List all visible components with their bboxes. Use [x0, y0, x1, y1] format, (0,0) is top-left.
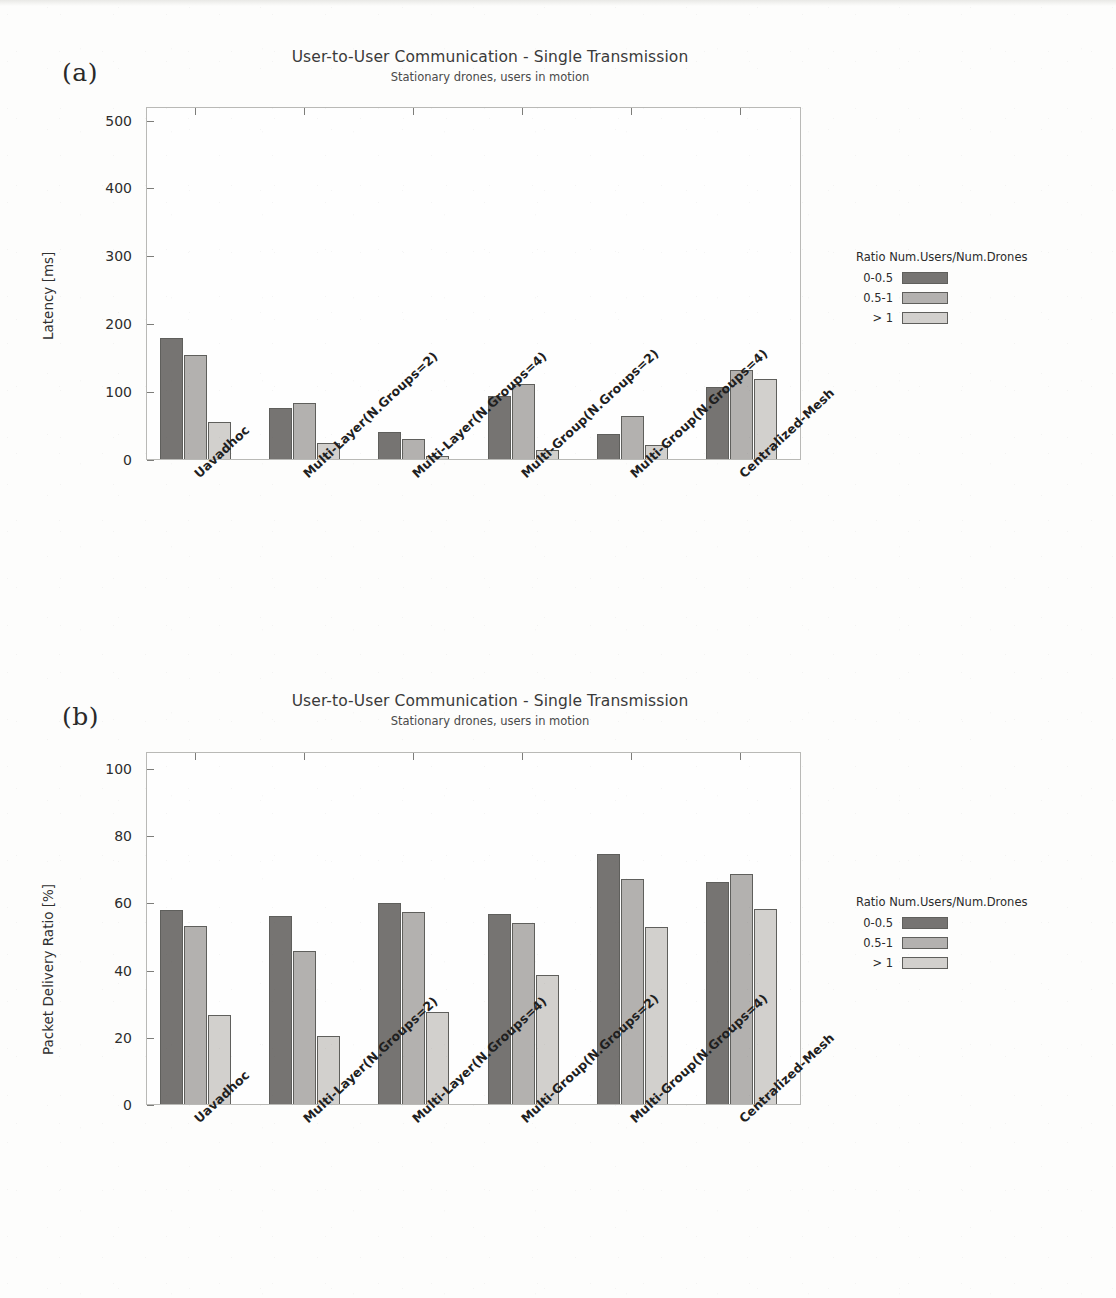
y-tick-mark [147, 769, 154, 770]
y-tick-mark [147, 121, 154, 122]
bar [293, 403, 316, 459]
y-tick-label: 0 [80, 1097, 132, 1113]
legend-label-1: 0.5-1 [856, 291, 902, 305]
bar [621, 879, 644, 1104]
y-tick-mark [147, 324, 154, 325]
legend-swatch-0 [902, 272, 948, 284]
legend-label-2: > 1 [856, 956, 902, 970]
y-tick-label: 300 [80, 248, 132, 264]
y-tick-label: 200 [80, 316, 132, 332]
y-tick-label: 40 [80, 963, 132, 979]
legend-swatch-1 [902, 292, 948, 304]
panel-a-subtitle: Stationary drones, users in motion [140, 70, 840, 84]
x-tick-mark [522, 753, 523, 760]
panel-a-letter: (a) [62, 58, 98, 87]
x-tick-mark [195, 108, 196, 115]
bar [269, 916, 292, 1104]
x-tick-mark [522, 108, 523, 115]
x-tick-mark [304, 108, 305, 115]
panel-a-title: User-to-User Communication - Single Tran… [140, 48, 840, 66]
bar [160, 910, 183, 1104]
legend-label-1: 0.5-1 [856, 936, 902, 950]
y-tick-mark [147, 1038, 154, 1039]
y-tick-label: 400 [80, 180, 132, 196]
legend-swatch-0 [902, 917, 948, 929]
x-tick-mark [304, 753, 305, 760]
bar [378, 903, 401, 1104]
bar [706, 882, 729, 1104]
bar [621, 416, 644, 459]
legend-item-1[interactable]: 0.5-1 [856, 936, 1027, 950]
panel-b-subtitle: Stationary drones, users in motion [140, 714, 840, 728]
panel-b-title: User-to-User Communication - Single Tran… [140, 692, 840, 710]
bar [597, 854, 620, 1104]
legend-title: Ratio Num.Users/Num.Drones [856, 895, 1027, 909]
panel-b-y-axis-label: Packet Delivery Ratio [%] [40, 884, 56, 1055]
x-tick-mark [195, 753, 196, 760]
legend-label-0: 0-0.5 [856, 916, 902, 930]
y-tick-label: 0 [80, 452, 132, 468]
bar [488, 914, 511, 1104]
y-tick-label: 60 [80, 895, 132, 911]
bar [184, 926, 207, 1104]
x-tick-mark [413, 108, 414, 115]
legend-label-0: 0-0.5 [856, 271, 902, 285]
y-tick-mark [147, 460, 154, 461]
legend-item-2[interactable]: > 1 [856, 956, 1027, 970]
x-tick-mark [631, 753, 632, 760]
legend-item-0[interactable]: 0-0.5 [856, 916, 1027, 930]
legend-item-0[interactable]: 0-0.5 [856, 271, 1027, 285]
y-tick-mark [147, 836, 154, 837]
bar [269, 408, 292, 459]
y-tick-mark [147, 1105, 154, 1106]
legend-title: Ratio Num.Users/Num.Drones [856, 250, 1027, 264]
bar [184, 355, 207, 459]
bar [597, 434, 620, 459]
x-tick-mark [631, 108, 632, 115]
y-tick-label: 500 [80, 113, 132, 129]
panel-b: (b) User-to-User Communication - Single … [0, 640, 1116, 1298]
x-tick-mark [413, 753, 414, 760]
bar [293, 951, 316, 1104]
bar [512, 384, 535, 459]
legend-item-2[interactable]: > 1 [856, 311, 1027, 325]
y-tick-label: 100 [80, 761, 132, 777]
panel-b-legend: Ratio Num.Users/Num.Drones 0-0.5 0.5-1 >… [856, 895, 1027, 976]
bar [730, 874, 753, 1104]
figure-page: (a) User-to-User Communication - Single … [0, 0, 1116, 1298]
y-tick-mark [147, 903, 154, 904]
legend-item-1[interactable]: 0.5-1 [856, 291, 1027, 305]
bar [378, 432, 401, 459]
panel-a-y-axis-label: Latency [ms] [40, 252, 56, 340]
panel-a-legend: Ratio Num.Users/Num.Drones 0-0.5 0.5-1 >… [856, 250, 1027, 331]
legend-swatch-1 [902, 937, 948, 949]
y-tick-label: 80 [80, 828, 132, 844]
panel-b-letter: (b) [62, 702, 99, 731]
y-tick-mark [147, 392, 154, 393]
legend-swatch-2 [902, 957, 948, 969]
x-tick-mark [740, 753, 741, 760]
bar [160, 338, 183, 459]
x-tick-mark [740, 108, 741, 115]
bar [645, 927, 668, 1104]
y-tick-label: 100 [80, 384, 132, 400]
y-tick-mark [147, 188, 154, 189]
y-tick-mark [147, 256, 154, 257]
legend-label-2: > 1 [856, 311, 902, 325]
panel-a: (a) User-to-User Communication - Single … [0, 0, 1116, 660]
y-tick-mark [147, 971, 154, 972]
y-tick-label: 20 [80, 1030, 132, 1046]
legend-swatch-2 [902, 312, 948, 324]
